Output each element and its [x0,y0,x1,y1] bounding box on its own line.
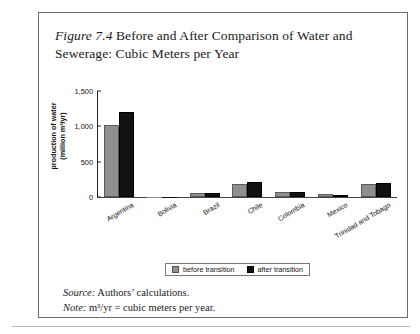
legend-swatch-before-icon [172,266,179,273]
legend-item-before: before transition [172,265,235,274]
y-tick-label-1500: 1,500 [61,87,93,96]
figure-notes: Source: Authors’ calculations. Note: m³/… [63,285,215,315]
figure-panel: Figure 7.4 Before and After Comparison o… [38,12,408,318]
bar-after [247,182,262,197]
source-text: Authors’ calculations. [95,287,189,298]
page-bottom-rule [12,326,410,327]
x-label-bolivia: Bolivia [156,201,177,218]
bar-before [318,194,333,197]
x-label-argentina: Argentina [106,201,135,222]
note-lead: Note: [63,302,86,313]
y-tick-label-1000: 1,000 [61,122,93,131]
figure-title: Figure 7.4 Before and After Comparison o… [55,27,385,63]
bar-after [376,183,391,197]
bar-before [104,125,119,197]
x-label-colombia: Colombia [277,201,306,222]
bar-before [232,184,247,197]
x-label-chile: Chile [246,201,263,215]
bar-before [275,192,290,197]
y-tick-label-0: 0 [61,193,93,202]
bar-after [290,192,305,197]
x-label-mexico: Mexico [326,201,349,218]
y-axis-title-line1: production of water [49,102,58,169]
bar-after [333,195,348,197]
chart-plot-area: production of water (million m³/yr) 1,50… [39,71,409,251]
x-label-brazil: Brazil [202,201,221,216]
y-axis-tick-labels: 1,500 1,000 500 0 [59,71,93,197]
bar-after [205,193,220,197]
source-lead: Source: [63,287,95,298]
bar-before [361,184,376,197]
x-axis-line [97,197,397,198]
x-axis-category-labels: ArgentinaBoliviaBrazilChileColombiaMexic… [98,71,397,131]
bar-before [190,193,205,197]
legend-label-before: before transition [183,265,235,274]
y-tick-label-500: 500 [61,157,93,166]
legend-item-after: after transition [247,265,304,274]
legend-label-after: after transition [258,265,304,274]
note-line: Note: m³/yr = cubic meters per year. [63,300,215,315]
source-line: Source: Authors’ calculations. [63,285,215,300]
legend-swatch-after-icon [247,266,254,273]
figure-number: Figure 7.4 [55,28,113,43]
chart-legend: before transition after transition [165,263,310,276]
note-text: m³/yr = cubic meters per year. [86,302,215,313]
